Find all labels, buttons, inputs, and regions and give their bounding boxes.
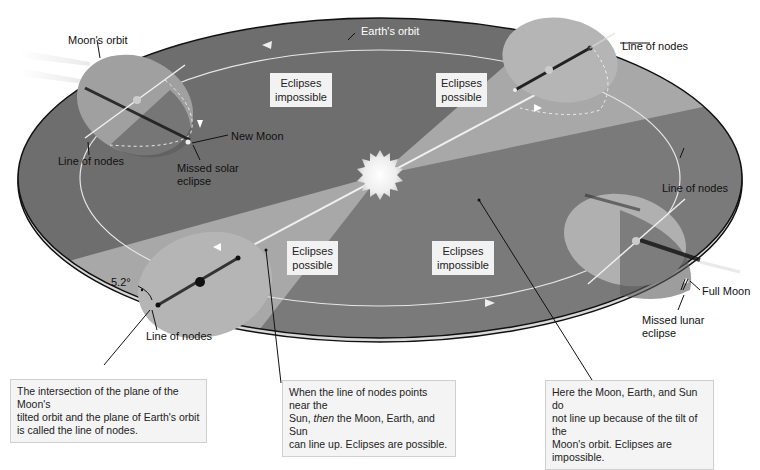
caption-text: Moon's orbit. Eclipses are impossible.	[552, 438, 707, 464]
missed-solar-eclipse-label: Missed solar eclipse	[177, 162, 239, 188]
zone-text: impossible	[275, 90, 327, 104]
moon-icon	[236, 256, 241, 261]
caption-text: tilted orbit and the plane of Earth's or…	[17, 411, 200, 424]
caption-text: is called the line of nodes.	[17, 424, 200, 437]
full-moon-label: Full Moon	[702, 285, 750, 298]
zone-text: impossible	[437, 258, 489, 272]
zone-eclipses-impossible-top: Eclipses impossible	[270, 73, 332, 107]
caption-text-emphasis: then	[314, 412, 334, 424]
moon-icon	[513, 88, 517, 92]
caption-text: When the line of nodes points near the	[289, 386, 449, 412]
zone-eclipses-possible-top: Eclipses possible	[436, 73, 487, 107]
line-of-nodes-label-top-right: Line of nodes	[622, 40, 688, 53]
caption-text: Sun, then the Moon, Earth, and Sun	[289, 412, 449, 438]
zone-text: Eclipses	[275, 76, 327, 90]
missed-lunar-eclipse-label: Missed lunar eclipse	[642, 314, 704, 340]
caption-text-part: Sun,	[289, 412, 314, 424]
tilt-angle-label: 5.2°	[111, 276, 131, 289]
moon-icon	[186, 140, 191, 145]
line-of-nodes-label-right: Line of nodes	[662, 182, 728, 195]
line-of-nodes-label-top-left: Line of nodes	[58, 155, 124, 168]
earth-icon	[632, 237, 640, 245]
zone-text: possible	[441, 90, 482, 104]
zone-text: Eclipses	[292, 244, 333, 258]
missed-lunar-eclipse-line2: eclipse	[642, 327, 704, 340]
zone-eclipses-possible-bottom: Eclipses possible	[287, 241, 338, 275]
caption-text: Here the Moon, Earth, and Sun do	[552, 386, 707, 412]
caption-line-of-nodes: The intersection of the plane of the Moo…	[10, 379, 207, 443]
missed-solar-eclipse-line2: eclipse	[177, 175, 239, 188]
new-moon-label: New Moon	[231, 130, 284, 143]
zone-text: Eclipses	[437, 244, 489, 258]
missed-solar-eclipse-line1: Missed solar	[177, 162, 239, 175]
zone-text: Eclipses	[441, 76, 482, 90]
caption-eclipses-impossible: Here the Moon, Earth, and Sun do not lin…	[545, 380, 714, 470]
caption-text: can line up. Eclipses are possible.	[289, 438, 449, 451]
earth-icon	[133, 96, 141, 104]
earth-icon	[195, 277, 205, 287]
line-of-nodes-label-bottom: Line of nodes	[146, 330, 212, 343]
caption-text: not line up because of the tilt of the	[552, 412, 707, 438]
zone-eclipses-impossible-bottom: Eclipses impossible	[432, 241, 494, 275]
earths-orbit-label: Earth's orbit	[361, 25, 419, 38]
moon-icon	[156, 303, 161, 308]
caption-eclipses-possible: When the line of nodes points near the S…	[282, 380, 456, 457]
missed-lunar-eclipse-line1: Missed lunar	[642, 314, 704, 327]
moons-orbit-label: Moon's orbit	[68, 34, 128, 47]
earth-icon	[545, 66, 553, 74]
zone-text: possible	[292, 258, 333, 272]
caption-text: The intersection of the plane of the Moo…	[17, 385, 200, 411]
